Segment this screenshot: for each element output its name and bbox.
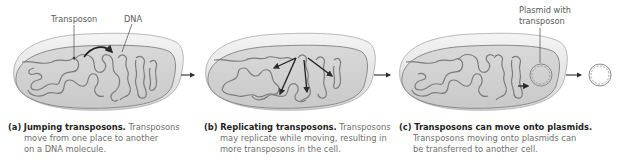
cell-a bbox=[14, 24, 184, 110]
caption-b: (b) Replicating transposons. Transposons… bbox=[204, 122, 404, 155]
cell-b bbox=[206, 33, 376, 110]
caption-a: (a) Jumping transposons. Transposons mov… bbox=[8, 122, 198, 155]
callout-plasmid-line2: transposon bbox=[519, 16, 565, 26]
free-plasmid-icon bbox=[589, 64, 611, 86]
callout-dna: DNA bbox=[124, 14, 142, 24]
transposon-figure: Transposon DNA bbox=[0, 0, 618, 167]
cell-c bbox=[400, 28, 568, 110]
callout-transposon: Transposon bbox=[50, 14, 97, 24]
caption-a-title: Jumping transposons. bbox=[24, 122, 126, 132]
callout-plasmid-line1: Plasmid with bbox=[519, 5, 571, 15]
caption-c-title: Transposons can move onto plasmids. bbox=[414, 122, 592, 132]
caption-b-title: Replicating transposons. bbox=[220, 122, 336, 132]
caption-c: (c) Transposons can move onto plasmids. … bbox=[399, 122, 617, 155]
